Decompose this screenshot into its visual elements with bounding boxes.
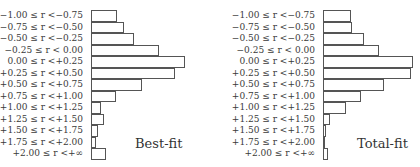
histogram-bar (323, 91, 361, 103)
bin-label: +0.75 ≤ r <+1.00 (232, 91, 315, 103)
bin-label: −0.50 ≤ r <−0.25 (0, 33, 83, 45)
histogram-bar (91, 56, 185, 68)
histogram-bar (91, 114, 104, 126)
histogram-row: 0.00 ≤ r <+0.25 (0, 56, 210, 68)
bin-label: −1.00 ≤ r <−0.75 (232, 10, 315, 22)
histogram-bar (323, 45, 379, 57)
bin-label: +1.50 ≤ r <+1.75 (232, 125, 315, 137)
histogram-row: −0.50 ≤ r <−0.25 (210, 33, 420, 45)
histogram-row: 0.00 ≤ r <+0.25 (210, 56, 420, 68)
histogram-bar (91, 22, 124, 34)
best-fit-label: Best-fit (135, 136, 182, 151)
histogram-bar (91, 102, 101, 114)
histogram-row: −0.75 ≤ r <−0.50 (0, 22, 210, 34)
bin-label: +0.50 ≤ r <+0.75 (232, 79, 315, 91)
histogram-row: −1.00 ≤ r <−0.75 (210, 10, 420, 22)
histogram-row: +0.75 ≤ r <+1.00 (0, 91, 210, 103)
bin-label: +0.25 ≤ r <+0.50 (0, 68, 83, 80)
histogram-bar (91, 125, 98, 137)
bin-label: −0.25 ≤ r < 0.00 (237, 45, 315, 57)
bin-label: −1.00 ≤ r <−0.75 (0, 10, 83, 22)
histogram-bar (323, 79, 384, 91)
histogram-bar (91, 137, 96, 149)
histogram-row: +0.50 ≤ r <+0.75 (210, 79, 420, 91)
bin-label: +0.50 ≤ r <+0.75 (0, 79, 83, 91)
histogram-row: +0.50 ≤ r <+0.75 (0, 79, 210, 91)
total-fit-label: Total-fit (357, 136, 408, 151)
bin-label: +2.00 ≤ r <+∞ (244, 148, 315, 160)
bin-label: +1.00 ≤ r <+1.25 (232, 102, 315, 114)
histogram-row: +0.75 ≤ r <+1.00 (210, 91, 420, 103)
histogram-bar (323, 125, 326, 137)
histogram-bar (91, 10, 117, 22)
bin-label: +0.25 ≤ r <+0.50 (232, 68, 315, 80)
bin-label: +1.00 ≤ r <+1.25 (0, 102, 83, 114)
bin-label: −0.75 ≤ r <−0.50 (0, 22, 83, 34)
histogram-bar (91, 33, 134, 45)
bin-label: +1.25 ≤ r <+1.50 (0, 114, 83, 126)
histogram-bar (323, 56, 413, 68)
histogram-bar (323, 148, 328, 160)
histogram-row: +1.25 ≤ r <+1.50 (0, 114, 210, 126)
bin-label: +1.75 ≤ r <+2.00 (232, 137, 315, 149)
histogram-bar (323, 114, 330, 126)
bin-label: −0.75 ≤ r <−0.50 (232, 22, 315, 34)
histogram-bar (91, 91, 116, 103)
histogram-row: −0.75 ≤ r <−0.50 (210, 22, 420, 34)
bin-label: −0.25 ≤ r < 0.00 (5, 45, 83, 57)
histogram-row: −0.25 ≤ r < 0.00 (0, 45, 210, 57)
histogram-bar (323, 102, 346, 114)
bin-label: +0.75 ≤ r <+1.00 (0, 91, 83, 103)
histogram-row: −1.00 ≤ r <−0.75 (0, 10, 210, 22)
bin-label: +2.00 ≤ r <+∞ (12, 148, 83, 160)
histogram-bar (323, 137, 325, 149)
histogram-bar (323, 33, 364, 45)
histogram-bar (323, 10, 351, 22)
bin-label: −0.50 ≤ r <−0.25 (232, 33, 315, 45)
histogram-row: −0.25 ≤ r < 0.00 (210, 45, 420, 57)
histogram-bar (91, 45, 159, 57)
bin-label: +1.50 ≤ r <+1.75 (0, 125, 83, 137)
histogram-row: −0.50 ≤ r <−0.25 (0, 33, 210, 45)
bin-label: 0.00 ≤ r <+0.25 (7, 56, 83, 68)
histogram-bar (323, 22, 352, 34)
histogram-row: +1.00 ≤ r <+1.25 (210, 102, 420, 114)
bin-label: 0.00 ≤ r <+0.25 (239, 56, 315, 68)
histogram-bar (91, 79, 142, 91)
histogram-bar (91, 68, 175, 80)
histogram-row: +1.00 ≤ r <+1.25 (0, 102, 210, 114)
histogram-row: +1.25 ≤ r <+1.50 (210, 114, 420, 126)
bin-label: +1.75 ≤ r <+2.00 (0, 137, 83, 149)
histogram-bar (323, 68, 411, 80)
histogram-row: +0.25 ≤ r <+0.50 (210, 68, 420, 80)
bin-label: +1.25 ≤ r <+1.50 (232, 114, 315, 126)
histogram-row: +0.25 ≤ r <+0.50 (0, 68, 210, 80)
histogram-bar (91, 148, 106, 160)
